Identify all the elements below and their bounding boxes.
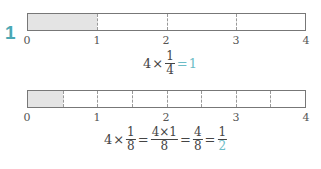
fraction: 4 8 <box>193 126 203 153</box>
fraction-bar-quarters <box>27 13 306 31</box>
times-sign: × <box>152 56 163 71</box>
denominator: 8 <box>161 140 169 153</box>
denominator: 8 <box>127 140 135 153</box>
tick-label: 2 <box>163 111 170 124</box>
divider <box>270 91 271 107</box>
tick-label: 2 <box>163 34 170 47</box>
tick-label: 4 <box>303 111 310 124</box>
fraction-bar-eighths <box>27 90 306 108</box>
tick-label: 0 <box>24 34 31 47</box>
shaded-segment <box>28 14 97 30</box>
numerator: 1 <box>126 126 136 140</box>
numerator: 1 <box>165 50 175 64</box>
divider <box>167 14 168 30</box>
tick-label: 4 <box>303 34 310 47</box>
tick-label: 3 <box>233 111 240 124</box>
denominator: 2 <box>218 140 226 153</box>
divider <box>201 91 202 107</box>
denominator: 4 <box>166 64 174 77</box>
equals-sign: = <box>205 132 216 147</box>
tick-label: 3 <box>233 34 240 47</box>
equals-sign: = <box>138 132 149 147</box>
divider <box>97 91 98 107</box>
numerator: 4 <box>193 126 203 140</box>
divider <box>97 14 98 30</box>
shaded-segment <box>28 91 63 107</box>
equals-sign: = <box>180 132 191 147</box>
tick-label: 1 <box>94 34 101 47</box>
divider <box>236 14 237 30</box>
eq-whole: 4 <box>104 132 112 147</box>
result: 1 <box>189 56 197 71</box>
fraction: 1 4 <box>165 50 175 77</box>
tick-label: 1 <box>94 111 101 124</box>
fraction: 1 8 <box>126 126 136 153</box>
times-sign: × <box>113 132 124 147</box>
divider <box>167 91 168 107</box>
denominator: 8 <box>194 140 202 153</box>
divider <box>63 91 64 107</box>
equation-1: 4 × 1 4 = 1 <box>143 50 197 77</box>
divider <box>236 91 237 107</box>
fraction: 4×1 8 <box>151 126 178 153</box>
divider <box>132 91 133 107</box>
numerator: 4×1 <box>151 126 178 140</box>
equation-2: 4 × 1 8 = 4×1 8 = 4 8 = 1 2 <box>104 126 228 153</box>
tick-label: 0 <box>24 111 31 124</box>
numerator: 1 <box>217 126 227 140</box>
result-fraction: 1 2 <box>217 126 227 153</box>
problem-number: 1 <box>5 22 16 44</box>
eq-whole: 4 <box>143 56 151 71</box>
equals-sign: = <box>177 56 188 71</box>
